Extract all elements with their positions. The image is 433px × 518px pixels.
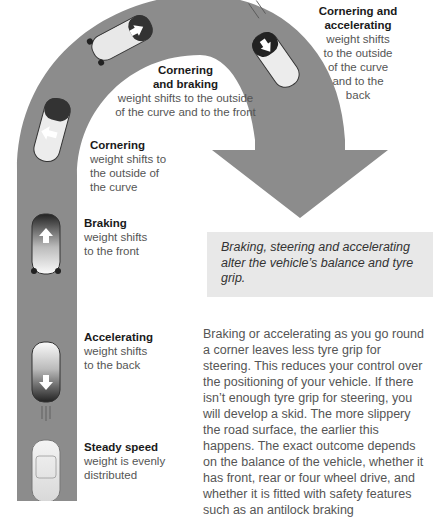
- label-cornering-braking: Cornering and braking weight shifts to t…: [108, 63, 263, 119]
- callout-text: Braking, steering and accelerating alter…: [221, 240, 413, 285]
- car-steady-speed: [32, 440, 60, 501]
- body-paragraph: Braking or accelerating as you go round …: [203, 326, 425, 518]
- car-braking: [31, 214, 61, 274]
- label-braking: Braking weight shifts to the front: [84, 216, 194, 258]
- label-steady-speed: Steady speed weight is evenly distribute…: [84, 440, 199, 482]
- label-cornering-accelerating: Cornering and accelerating weight shifts…: [308, 4, 408, 102]
- label-cornering: Cornering weight shifts to the outside o…: [90, 138, 200, 194]
- callout-box: Braking, steering and accelerating alter…: [207, 232, 433, 297]
- label-accelerating: Accelerating weight shifts to the back: [84, 330, 194, 372]
